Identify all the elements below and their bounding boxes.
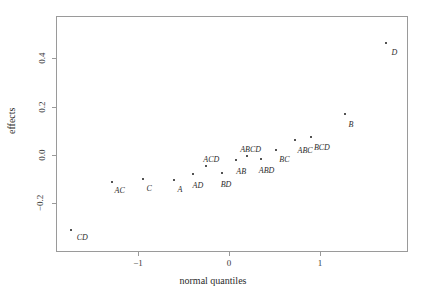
data-point-label: BCD <box>314 144 330 152</box>
data-point <box>142 178 144 180</box>
x-tick-mark <box>229 252 230 256</box>
data-point <box>205 165 207 167</box>
data-point-label: AC <box>115 187 125 195</box>
data-point <box>294 139 296 141</box>
x-tick-mark <box>138 252 139 256</box>
data-point-label: AD <box>193 182 204 190</box>
data-point-label: AB <box>236 168 246 176</box>
x-tick-label: −1 <box>133 258 143 268</box>
data-point-label: BD <box>221 181 232 189</box>
data-point-label: CD <box>77 234 88 242</box>
y-tick-mark <box>52 203 56 204</box>
x-tick-mark <box>320 252 321 256</box>
data-point-label: ABD <box>259 167 275 175</box>
data-point <box>246 155 248 157</box>
y-tick-mark <box>52 58 56 59</box>
data-point <box>173 179 175 181</box>
y-tick-mark <box>52 107 56 108</box>
y-tick-label: 0.0 <box>37 150 48 160</box>
data-point-label: ABC <box>298 147 313 155</box>
x-axis-label: normal quantiles <box>0 275 426 286</box>
data-point-label: C <box>147 185 152 193</box>
plot-area-frame <box>56 16 408 252</box>
data-point-label: D <box>391 49 397 57</box>
data-point <box>344 113 346 115</box>
data-point <box>310 136 312 138</box>
normal-quantile-plot-figure: −101 −0.20.00.20.4 CDACCAADACDBDABABCDAB… <box>0 0 426 299</box>
data-point-label: A <box>177 186 182 194</box>
data-point <box>221 172 223 174</box>
x-tick-label: 0 <box>227 258 232 268</box>
y-tick-label: 0.4 <box>37 53 48 63</box>
data-point-label: B <box>349 121 354 129</box>
data-point <box>70 229 72 231</box>
data-point <box>235 159 237 161</box>
y-tick-label: −0.2 <box>32 198 48 208</box>
y-tick-label: 0.2 <box>37 102 48 112</box>
data-point <box>385 42 387 44</box>
data-point <box>111 181 113 183</box>
y-tick-mark <box>52 155 56 156</box>
data-point-label: ACD <box>203 156 219 164</box>
data-point <box>260 158 262 160</box>
data-point <box>275 149 277 151</box>
y-axis-label: effects <box>6 108 17 134</box>
data-point-label: ABCD <box>240 146 261 154</box>
data-point-label: BC <box>279 156 289 164</box>
data-point <box>192 173 194 175</box>
x-tick-label: 1 <box>318 258 323 268</box>
